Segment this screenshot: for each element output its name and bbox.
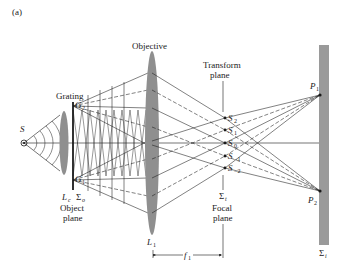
svg-text:2: 2 [234, 118, 237, 124]
image-screen [319, 45, 329, 245]
transform-plane-label-line2: plane [210, 70, 230, 80]
object-plane-label-line2: plane [63, 213, 83, 223]
panel-label: (a) [12, 7, 22, 17]
p2-point [318, 189, 321, 192]
p2-label: P2 [307, 195, 317, 206]
transform-plane-label-line1: Transform [203, 60, 241, 70]
svg-text:L: L [146, 237, 152, 247]
source-label: S [20, 124, 25, 134]
svg-text:1: 1 [153, 242, 156, 248]
svg-text:1: 1 [316, 86, 319, 92]
svg-text:P: P [309, 81, 316, 91]
p1-point [318, 93, 321, 96]
lc-label: L c [61, 192, 71, 203]
p1-label: P1 [309, 81, 319, 92]
objective-label: Objective [132, 41, 167, 51]
l1-label: L 1 [146, 237, 156, 248]
svg-text:Σ: Σ [76, 192, 81, 202]
svg-text:1: 1 [234, 130, 237, 136]
svg-text:P: P [307, 195, 314, 205]
focal-plane-label-line1: Focal [212, 203, 232, 213]
s2-label: S2 [228, 113, 237, 124]
s1-label: S1 [228, 125, 237, 136]
s0-label: S0 [228, 138, 237, 149]
object-plane-label-line1: Object [60, 203, 84, 213]
collimating-lens [60, 111, 69, 175]
svg-text:L: L [61, 192, 67, 202]
svg-text:2: 2 [314, 200, 317, 206]
svg-text:2: 2 [82, 105, 85, 111]
svg-text:t: t [225, 196, 227, 202]
svg-text:1: 1 [188, 255, 191, 261]
svg-text:S: S [228, 163, 233, 173]
focal-plane-label-line2: plane [213, 213, 233, 223]
sigma-i-label: Σi [319, 248, 327, 259]
svg-text:S: S [228, 113, 233, 123]
sigma-o-label: Σ o [76, 192, 85, 203]
s-minus1-label: S−1 [228, 151, 240, 162]
svg-text:Σ: Σ [319, 248, 324, 258]
focal-length-dimension [153, 224, 223, 258]
s-minus2-label: S−2 [228, 163, 240, 174]
svg-text:i: i [325, 253, 327, 259]
optics-diagram: (a) S Grating G 2 G 1 L c Σ o Object pla… [0, 0, 346, 280]
sigma-t-label: Σt [219, 191, 227, 202]
f1-label: f1 [184, 250, 191, 261]
svg-text:Σ: Σ [219, 191, 224, 201]
objective-lens [145, 51, 159, 235]
